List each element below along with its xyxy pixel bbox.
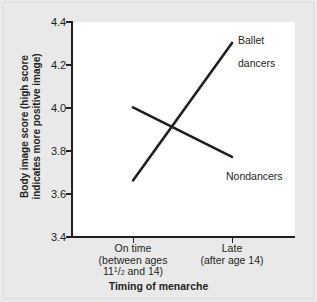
y-axis-title-line: indicates more positive image) (31, 19, 43, 234)
series-label-line: Ballet (238, 35, 275, 47)
series-label-line: dancers (238, 58, 275, 70)
x-axis-tick-label-sub: 111/2 and 14) (68, 266, 198, 278)
series-label-ballet-dancers: Ballet dancers (238, 23, 275, 81)
fraction-one-half: 1/2 (114, 266, 125, 278)
x-axis-tick-label-main: On time (68, 243, 198, 255)
x-axis-tick-label-sub-post: and 14) (125, 265, 164, 277)
x-axis-tick-label-on-time: On time (between ages 111/2 and 14) (68, 243, 198, 278)
series-label-nondancers: Nondancers (226, 159, 283, 194)
series-line-ballet-dancers (133, 43, 232, 181)
fraction-denominator: 2 (121, 269, 125, 276)
x-axis-tick-label-sub: (after age 14) (181, 255, 283, 267)
chart-figure: 3.4 3.6 3.8 4.0 4.2 4.4 Ballet dancers N… (0, 0, 317, 302)
x-axis-tick-label-sub-pre: 11 (103, 265, 114, 277)
series-line-nondancers (133, 107, 232, 156)
x-axis-tick-label-main: Late (181, 243, 283, 255)
x-axis-tick-label-late: Late (after age 14) (181, 243, 283, 266)
series-label-line: Nondancers (226, 171, 283, 183)
x-axis-title: Timing of menarche (0, 280, 317, 292)
y-axis-title: Body image score (high score indicates m… (19, 19, 42, 234)
y-axis-title-line: Body image score (high score (19, 19, 31, 234)
